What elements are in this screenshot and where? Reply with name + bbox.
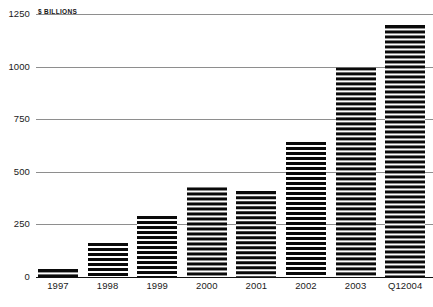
- bar: [137, 216, 177, 277]
- bar-slot: [385, 0, 425, 277]
- bar-chart: 025050075010001250 $ BILLIONS 1997199819…: [0, 0, 433, 307]
- bar-slot: [187, 0, 227, 277]
- y-axis-tick-label: 500: [14, 167, 30, 177]
- y-axis-tick-label: 1250: [8, 9, 30, 19]
- x-axis: 1997199819992000200120022003Q12004: [36, 280, 433, 298]
- y-axis-tick-label: 750: [14, 114, 30, 124]
- axis-baseline: [36, 277, 433, 278]
- bar: [286, 142, 326, 277]
- bar: [385, 25, 425, 277]
- bar-slot: [286, 0, 326, 277]
- bar: [88, 243, 128, 277]
- bar-slot: [336, 0, 376, 277]
- bar: [336, 67, 376, 277]
- y-axis: 025050075010001250: [0, 0, 30, 307]
- bar: [38, 269, 78, 277]
- bar-slot: [88, 0, 128, 277]
- y-axis-tick-label: 1000: [8, 62, 30, 72]
- bar-slot: [137, 0, 177, 277]
- bar: [187, 187, 227, 277]
- x-axis-tick-label: Q12004: [375, 280, 433, 292]
- bar: [236, 191, 276, 277]
- bar-slot: [236, 0, 276, 277]
- plot-area: [36, 0, 433, 277]
- y-axis-tick-label: 250: [14, 219, 30, 229]
- bar-slot: [38, 0, 78, 277]
